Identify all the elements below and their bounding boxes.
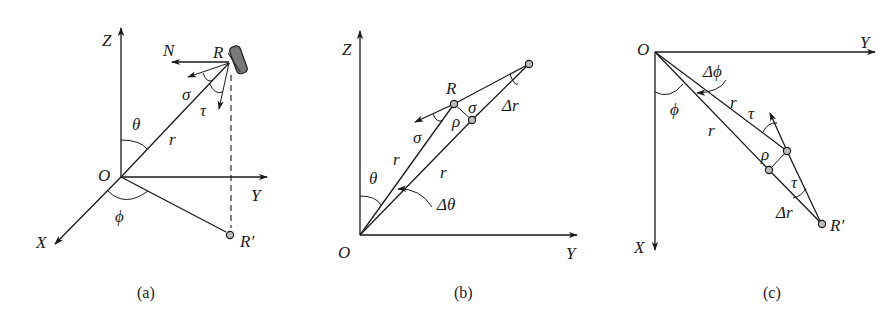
- target-label: R: [445, 79, 457, 98]
- theta-label: θ: [132, 115, 140, 134]
- target-point: [450, 100, 457, 107]
- theta-label: θ: [369, 169, 377, 188]
- origin-label: O: [98, 166, 110, 185]
- far-point: [525, 60, 532, 67]
- projection-label: R′: [829, 216, 844, 235]
- delta-theta-label: Δθ: [436, 195, 455, 214]
- x-axis: [55, 177, 121, 244]
- z-axis-label: Z: [342, 40, 352, 59]
- radar-geometry-figure: Z Y X O R R′ N θ ϕ r σ τ (a): [0, 0, 894, 328]
- reflector-icon: [228, 45, 248, 75]
- origin-label: O: [637, 40, 649, 59]
- tau-arc: [210, 84, 223, 93]
- phi-arc: [655, 84, 683, 95]
- sigma-arc-1: [433, 114, 443, 121]
- caption-c: (c): [763, 284, 781, 302]
- sigma-label-1: σ: [413, 128, 422, 147]
- x-axis-label: X: [633, 238, 645, 257]
- z-axis-label: Z: [102, 31, 112, 50]
- range-label: r: [169, 130, 176, 149]
- range-label-2: r: [708, 121, 715, 140]
- caption-b: (b): [454, 284, 473, 302]
- sigma-label-2: σ: [468, 98, 477, 117]
- delta-r-label: Δr: [501, 96, 519, 115]
- rho-label: ρ: [760, 145, 769, 164]
- theta-arc: [360, 196, 381, 205]
- projection-line: [121, 177, 226, 232]
- delta-r-line: [472, 64, 529, 120]
- projection-point: [226, 231, 233, 238]
- target-label: R: [212, 43, 224, 62]
- normal-label: N: [162, 41, 176, 60]
- offset-point: [468, 116, 475, 123]
- sigma-label: σ: [182, 85, 191, 104]
- range-label-1: r: [393, 150, 400, 169]
- upper-point: [783, 147, 790, 154]
- theta-arc: [121, 140, 147, 149]
- y-axis-label: Y: [566, 244, 577, 263]
- panel-a: Z Y X O R R′ N θ ϕ r σ τ (a): [35, 28, 267, 302]
- tau-label: τ: [200, 101, 207, 120]
- y-axis-label: Y: [251, 186, 262, 205]
- panel-b: Z Y O R θ Δθ r r Δr ρ σ σ (b): [338, 31, 577, 302]
- rho-label: ρ: [451, 112, 460, 131]
- range-label-2: r: [440, 163, 447, 182]
- panel-c: O Y X Δϕ ϕ r r τ ρ τ Δr R′ (c): [633, 33, 875, 302]
- y-axis-label: Y: [860, 33, 871, 52]
- range-label-1: r: [730, 93, 737, 112]
- delta-phi-label: Δϕ: [702, 62, 722, 81]
- x-axis-label: X: [35, 233, 47, 252]
- phi-label: ϕ: [115, 207, 124, 226]
- phi-arc: [108, 191, 148, 200]
- lower-point: [765, 166, 772, 173]
- origin-label: O: [338, 243, 350, 262]
- delta-r-label: Δr: [775, 203, 793, 222]
- phi-label: ϕ: [670, 100, 679, 119]
- projection-label: R′: [239, 232, 254, 251]
- projection-point: [818, 220, 825, 227]
- tau-arrow: [219, 63, 229, 109]
- sigma-arc: [203, 73, 213, 81]
- tau-label-2: τ: [791, 173, 798, 192]
- caption-a: (a): [137, 284, 155, 302]
- tau-label-1: τ: [748, 104, 755, 123]
